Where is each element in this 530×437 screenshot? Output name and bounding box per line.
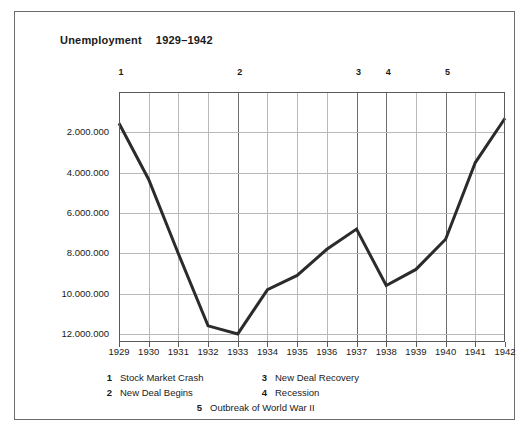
- x-axis-tick: [119, 342, 120, 347]
- y-axis-tick-label: 12.000.000: [23, 328, 109, 339]
- y-axis-tick-label: 4.000.000: [23, 167, 109, 178]
- x-axis-tick: [267, 342, 268, 347]
- plot-area: [119, 92, 505, 342]
- event-marker-4: 4: [378, 67, 398, 77]
- unemployment-line-series: [119, 92, 505, 342]
- series-polyline: [119, 118, 505, 334]
- x-axis-tick: [446, 342, 447, 347]
- x-axis-tick: [357, 342, 358, 347]
- x-axis-tick: [297, 342, 298, 347]
- page-title: Unemployment1929–1942: [60, 34, 213, 46]
- x-axis-tick: [386, 342, 387, 347]
- legend-row: 5 Outbreak of World War II: [60, 402, 480, 417]
- x-axis-tick: [505, 342, 506, 347]
- y-axis-tick-label: 8.000.000: [23, 247, 109, 258]
- y-axis-tick-label: 6.000.000: [23, 207, 109, 218]
- x-axis-tick: [178, 342, 179, 347]
- x-axis-tick: [475, 342, 476, 347]
- legend-row: 4 Recession: [60, 387, 480, 402]
- legend-row: 3 New Deal Recovery: [60, 372, 480, 387]
- chart-frame: Unemployment1929–1942 12345 2.000.0004.0…: [14, 11, 515, 420]
- x-axis-tick: [208, 342, 209, 347]
- legend-number: 3: [255, 372, 267, 383]
- x-axis-tick: [327, 342, 328, 347]
- event-marker-2: 2: [230, 67, 250, 77]
- event-marker-3: 3: [349, 67, 369, 77]
- legend-number: 5: [190, 402, 202, 413]
- x-axis-tick-label: 1942: [485, 346, 525, 357]
- x-axis-tick: [416, 342, 417, 347]
- title-range: 1929–1942: [142, 34, 213, 46]
- legend-label: New Deal Recovery: [275, 372, 359, 383]
- y-axis-tick-label: 2.000.000: [23, 126, 109, 137]
- legend: 1 Stock Market Crash 2 New Deal Begins 5…: [60, 372, 480, 417]
- x-axis-tick: [149, 342, 150, 347]
- x-axis-tick: [238, 342, 239, 347]
- title-label: Unemployment: [60, 34, 142, 46]
- y-axis-tick-label: 10.000.000: [23, 288, 109, 299]
- legend-label: Outbreak of World War II: [210, 402, 315, 413]
- event-marker-5: 5: [438, 67, 458, 77]
- legend-number: 4: [255, 387, 267, 398]
- legend-label: Recession: [275, 387, 319, 398]
- event-marker-1: 1: [111, 67, 131, 77]
